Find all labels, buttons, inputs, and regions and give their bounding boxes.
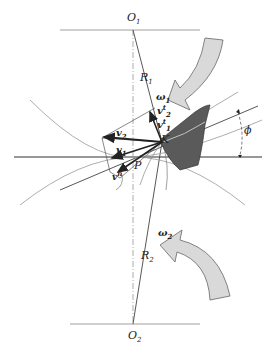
label-v2: v2 (116, 128, 127, 140)
label-v1: v1 (116, 145, 127, 157)
diagram-graphics (0, 0, 273, 353)
label-phi: ϕ (244, 125, 252, 136)
parallelogram-top-edge (102, 108, 155, 138)
pitch-circle-1 (30, 100, 262, 157)
label-vt1: vt1 (157, 118, 171, 132)
phi-arrowhead-top (236, 109, 240, 114)
label-r2: R2 (141, 250, 154, 264)
pitch-circle-2 (20, 157, 245, 205)
label-o1: O1 (127, 12, 141, 26)
phi-angle-arc (238, 112, 242, 155)
label-vn: vn (112, 170, 122, 182)
label-r1: R1 (140, 72, 153, 86)
label-omega2: ω2 (158, 228, 172, 240)
gear-contact-diagram: O1 O2 R1 R2 ω1 ω2 vt2 vt1 v2 v1 vn P K ϕ (0, 0, 273, 353)
label-k: K (161, 134, 169, 145)
omega1-rotation-arrow (168, 38, 223, 110)
label-o2: O2 (128, 330, 142, 344)
label-p: P (134, 160, 141, 171)
